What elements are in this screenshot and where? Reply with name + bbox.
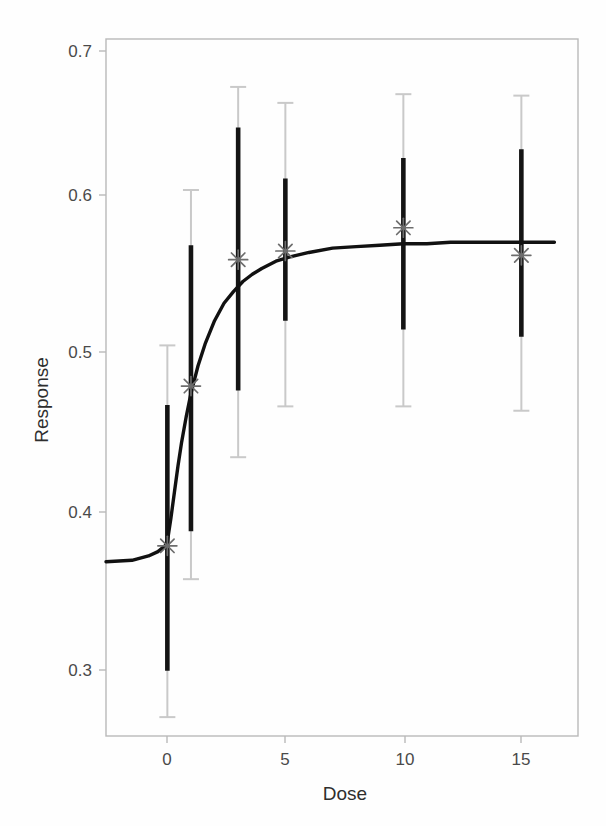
y-tick-label-0.7: 0.7 — [68, 42, 92, 61]
dose-response-chart: Response Dose 0.7 0.6 0.5 0.4 0.3 0 — [0, 0, 606, 826]
fitted-curve-group — [106, 242, 554, 561]
data-marker-group — [158, 218, 531, 555]
data-marker-asterisk — [181, 377, 200, 396]
data-marker-asterisk — [158, 536, 177, 555]
x-tick-label-10: 10 — [396, 750, 415, 769]
data-marker-asterisk — [394, 218, 413, 237]
y-axis-ticks: 0.7 0.6 0.5 0.4 0.3 — [68, 42, 106, 680]
y-tick-label-0.4: 0.4 — [68, 503, 92, 522]
x-tick-label-15: 15 — [512, 750, 531, 769]
outer-interval-group — [159, 87, 529, 717]
y-tick-label-0.3: 0.3 — [68, 661, 92, 680]
x-axis-ticks: 0 5 10 15 — [162, 736, 530, 769]
fitted-curve — [106, 242, 554, 561]
y-tick-label-0.6: 0.6 — [68, 186, 92, 205]
y-axis-title: Response — [31, 357, 52, 443]
x-tick-label-0: 0 — [162, 750, 171, 769]
dose-response-figure: Response Dose 0.7 0.6 0.5 0.4 0.3 0 — [0, 0, 606, 826]
x-axis-title: Dose — [323, 783, 367, 804]
data-marker-asterisk — [512, 246, 531, 265]
x-tick-label-5: 5 — [280, 750, 289, 769]
y-tick-label-0.5: 0.5 — [68, 343, 92, 362]
data-marker-asterisk — [276, 242, 295, 261]
plot-frame — [106, 39, 578, 736]
inner-interval-group — [167, 128, 521, 671]
data-marker-asterisk — [229, 250, 248, 269]
